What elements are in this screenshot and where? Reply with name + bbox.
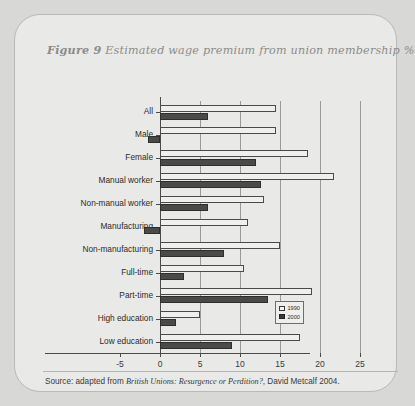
gridline-20 [320,101,321,353]
bar-1990-manufacturing [160,219,248,226]
figure-title-text: Estimated wage premium from union member… [105,44,414,57]
x-tick-label-10: 10 [235,359,244,369]
category-label-part-time: Part-time [43,290,153,300]
x-tick-10 [240,353,241,357]
x-tick-label-5: 5 [198,359,203,369]
x-tick-15 [280,353,281,357]
legend-item-2000: 2000 [279,313,300,322]
category-label-all: All [43,106,153,116]
legend-label-1990: 1990 [288,304,300,313]
source-suffix: , David Metcalf 2004. [263,377,340,386]
x-tick-label-0: 0 [158,359,163,369]
bar-1990-high-education [160,311,200,318]
category-label-male: Male [43,129,153,139]
category-label-low-education: Low education [43,336,153,346]
figure-number: Figure 9 [47,43,101,57]
legend-item-1990: 1990 [279,304,300,313]
bar-2000-manufacturing [144,227,160,234]
category-labels: AllMaleFemaleManual workerNon-manual wor… [45,75,153,365]
category-label-female: Female [43,152,153,162]
figure-title: Figure 9 Estimated wage premium from uni… [47,43,387,57]
bar-2000-non-manufacturing [160,250,224,257]
bar-1990-full-time [160,265,244,272]
bar-2000-all [160,113,208,120]
source-prefix: Source: adapted from [45,377,126,386]
bar-1990-manual-worker [160,173,334,180]
bar-1990-part-time [160,288,312,295]
bar-1990-female [160,150,308,157]
chart-area: AllMaleFemaleManual workerNon-manual wor… [45,75,397,365]
x-tick-label-25: 25 [355,359,364,369]
x-axis [45,353,310,354]
legend-swatch-2000 [279,314,285,319]
figure-card: Figure 9 Estimated wage premium from uni… [14,14,397,392]
bar-2000-female [160,159,256,166]
gridline-5 [200,101,201,353]
x-tick-0 [160,353,161,357]
bar-1990-non-manual-worker [160,196,264,203]
category-label-non-manufacturing: Non-manufacturing [43,244,153,254]
x-tick-5 [200,353,201,357]
bar-1990-non-manufacturing [160,242,280,249]
bar-2000-part-time [160,296,268,303]
gridline-10 [240,101,241,353]
legend-label-2000: 2000 [288,313,300,322]
x-tick-label-20: 20 [315,359,324,369]
bar-2000-manual-worker [160,181,261,188]
x-tick-20 [320,353,321,357]
figure-source: Source: adapted from British Unions: Res… [45,377,395,386]
x-tick--5 [120,353,121,357]
source-book-title: British Unions: Resurgence or Perdition? [126,377,263,386]
bar-2000-low-education [160,342,232,349]
bar-2000-high-education [160,319,176,326]
gridline-25 [360,101,361,353]
x-tick-label--5: -5 [116,359,124,369]
chart-legend: 1990 2000 [275,301,304,324]
x-tick-label-15: 15 [275,359,284,369]
category-label-high-education: High education [43,313,153,323]
bar-1990-all [160,105,276,112]
bar-2000-non-manual-worker [160,204,208,211]
category-label-full-time: Full-time [43,267,153,277]
source-divider [43,371,398,372]
bar-1990-low-education [160,334,300,341]
bar-2000-full-time [160,273,184,280]
category-label-non-manual-worker: Non-manual worker [43,198,153,208]
bar-2000-male [148,136,160,143]
category-label-manufacturing: Manufacturing [43,221,153,231]
x-tick-25 [360,353,361,357]
category-label-manual-worker: Manual worker [43,175,153,185]
bar-1990-male [160,127,276,134]
legend-swatch-1990 [279,306,285,311]
